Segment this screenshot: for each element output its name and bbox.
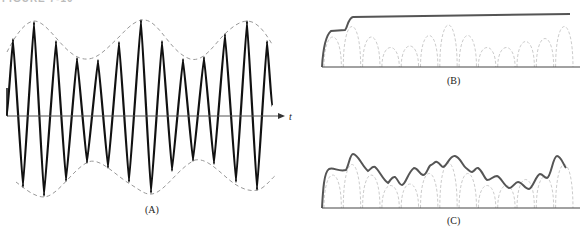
rectified-arches-c — [324, 163, 573, 208]
rectified-arches-b — [324, 25, 573, 67]
caption-a: (A) — [145, 204, 159, 216]
detector-output-c — [322, 154, 566, 208]
axis-arrow-icon — [278, 113, 285, 119]
detector-output-b — [322, 14, 570, 67]
caption-b: (B) — [447, 75, 460, 87]
figure-canvas: t (A) (B) (C) — [0, 0, 580, 227]
caption-c: (C) — [447, 215, 460, 227]
axis-label-t: t — [289, 111, 292, 122]
panel-a: t (A) — [7, 20, 292, 216]
panel-b: (B) — [322, 14, 580, 87]
am-carrier-wave — [7, 20, 272, 196]
panel-c: (C) — [322, 154, 580, 227]
